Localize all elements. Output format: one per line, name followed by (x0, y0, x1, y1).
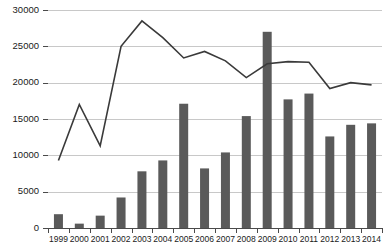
x-tick-label: 1999 (49, 234, 68, 244)
x-tick-label: 2000 (70, 234, 89, 244)
bar (200, 168, 209, 228)
bar (346, 125, 355, 228)
y-tick-label: 20000 (13, 76, 39, 87)
y-axis-tick-labels: 050001000015000200002500030000 (13, 4, 39, 233)
x-tick-label: 2005 (174, 234, 193, 244)
x-tick-label: 2001 (91, 234, 110, 244)
x-tick-label: 2014 (362, 234, 381, 244)
bar (304, 94, 313, 228)
bar (96, 216, 105, 228)
bar (284, 99, 293, 228)
bar (137, 171, 146, 228)
x-tick-label: 2007 (216, 234, 235, 244)
x-tick-label: 2013 (341, 234, 360, 244)
x-tick-label: 2009 (258, 234, 277, 244)
chart-container: 050001000015000200002500030000 199920002… (0, 0, 386, 251)
bar (221, 152, 230, 228)
bar (54, 214, 63, 228)
bar (325, 136, 334, 228)
line-series (58, 21, 371, 161)
bar (179, 104, 188, 228)
x-tick-label: 2006 (195, 234, 214, 244)
chart-plot-area: 050001000015000200002500030000 199920002… (0, 0, 386, 251)
bar (367, 123, 376, 228)
x-tick-label: 2002 (112, 234, 131, 244)
y-tick-label: 5000 (18, 185, 39, 196)
y-tick-label: 30000 (13, 4, 39, 15)
bar (117, 197, 126, 228)
bar (242, 116, 251, 228)
x-axis-tick-labels: 1999200020012002200320042005200620072008… (49, 234, 381, 244)
y-tick-label: 15000 (13, 113, 39, 124)
y-tick-label: 10000 (13, 149, 39, 160)
bar (75, 224, 84, 228)
x-tick-label: 2012 (320, 234, 339, 244)
x-tick-label: 2004 (153, 234, 172, 244)
bar-series (54, 32, 376, 228)
bar (158, 160, 167, 228)
x-tick-label: 2008 (237, 234, 256, 244)
x-tick-label: 2011 (300, 234, 319, 244)
x-tick-label: 2010 (279, 234, 298, 244)
y-tick-label: 25000 (13, 40, 39, 51)
y-tick-label: 0 (34, 222, 39, 233)
line-path (58, 21, 371, 161)
bar (263, 32, 272, 228)
x-tick-label: 2003 (132, 234, 151, 244)
